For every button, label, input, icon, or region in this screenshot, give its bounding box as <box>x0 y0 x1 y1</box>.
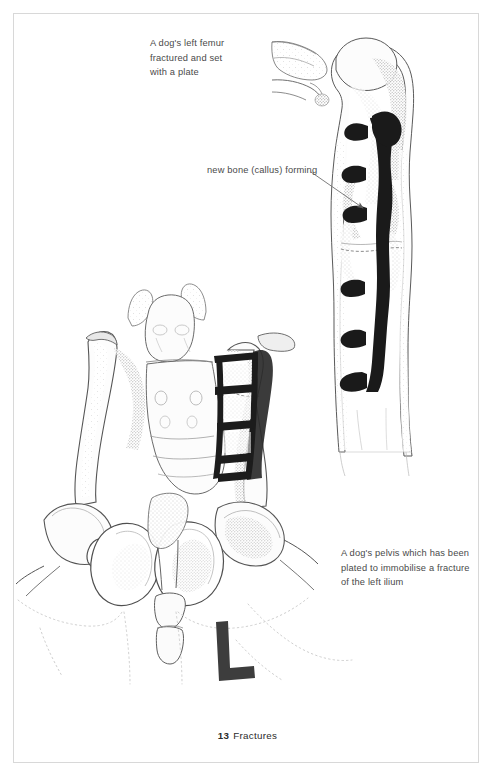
obturator-foramina <box>91 522 224 606</box>
pelvis-bone-plate <box>213 350 273 482</box>
annotation-label-callus: new bone (callus) forming <box>207 163 367 178</box>
page-number: 13 <box>218 730 230 741</box>
side-marker-L <box>216 621 255 681</box>
femur-bone-plate <box>340 112 402 393</box>
ilium-fragment <box>258 333 295 351</box>
femur-acetabulum-fragment <box>272 41 329 106</box>
pubic-symphysis <box>148 493 188 664</box>
hip-joint-left <box>16 504 120 596</box>
hip-joint-right <box>215 502 318 590</box>
pelvis-figure <box>16 284 352 684</box>
ilium-wing-left <box>75 331 145 506</box>
callus-new-bone <box>340 178 400 292</box>
caption-femur-figure: A dog's left femur fractured and set wit… <box>150 36 280 80</box>
radiograph-illustrations <box>0 0 495 782</box>
caption-pelvis-figure: A dog's pelvis which has been plated to … <box>341 546 476 590</box>
page-border-frame <box>13 13 479 763</box>
soft-tissue-outlines <box>18 598 352 684</box>
femur-bone <box>331 38 414 456</box>
chapter-title: Fractures <box>233 730 277 741</box>
femur-figure <box>272 38 414 476</box>
lumbar-vertebra <box>128 284 206 362</box>
ilium-wing-right-fractured <box>226 343 267 508</box>
page-footer: 13Fractures <box>0 730 495 741</box>
book-page: A dog's left femur fractured and set wit… <box>0 0 495 782</box>
sacrum <box>146 360 225 494</box>
